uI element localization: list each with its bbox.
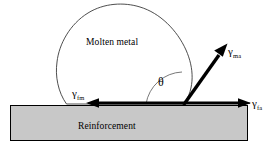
- gamma-ma-label: γma: [228, 42, 241, 58]
- substrate-label: Reinforcement: [78, 122, 136, 132]
- gamma-fa-subscript: fa: [257, 104, 262, 111]
- contact-angle-label: θ: [158, 76, 164, 88]
- gamma-fm-label: γfm: [72, 84, 85, 100]
- gamma-fm-subscript: fm: [77, 94, 85, 101]
- contact-angle-diagram: Molten metal Reinforcement γfm γma γfa θ: [0, 0, 276, 156]
- gamma-ma-subscript: ma: [233, 52, 241, 59]
- droplet-label: Molten metal: [86, 38, 138, 48]
- diagram-canvas: [0, 0, 276, 156]
- gamma-fa-label: γfa: [252, 94, 262, 110]
